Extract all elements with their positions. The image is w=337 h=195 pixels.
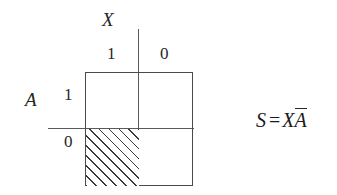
column-variable-label: X — [102, 10, 114, 29]
map-cell-x0-a0[interactable] — [139, 129, 193, 186]
row-header-0: 0 — [64, 133, 73, 150]
map-cell-x1-a0-shaded[interactable] — [86, 129, 139, 186]
diagram-canvas: X A 1 0 1 0 S=XA — [0, 0, 337, 195]
equation-equals-sign: = — [269, 109, 280, 131]
column-header-1: 1 — [107, 45, 116, 62]
column-header-0: 0 — [160, 45, 169, 62]
equation-term-x: X — [282, 109, 294, 131]
row-header-1: 1 — [64, 86, 73, 103]
map-cell-x0-a1[interactable] — [139, 73, 193, 128]
row-variable-label: A — [25, 90, 37, 109]
map-cell-x1-a1[interactable] — [86, 73, 138, 128]
equation-left-side: S — [256, 109, 266, 131]
boolean-equation: S=XA — [256, 108, 307, 132]
equation-term-a-complement: A — [295, 108, 307, 130]
